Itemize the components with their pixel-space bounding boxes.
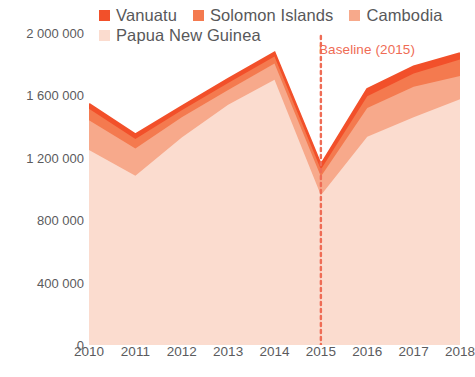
- y-axis: 2 000 0001 600 0001 200 000800 000400 00…: [0, 0, 84, 377]
- plot-area: [89, 20, 460, 345]
- baseline-annotation-label: Baseline (2015): [319, 42, 415, 57]
- x-axis-tick-2014: 2014: [259, 344, 289, 359]
- x-axis-tick-2018: 2018: [445, 344, 475, 359]
- stacked-area-chart: Vanuatu Solomon Islands Cambodia Papua N…: [0, 0, 475, 377]
- x-axis-tick-2011: 2011: [121, 344, 150, 359]
- x-axis: 201020112012201320142015201620172018: [89, 344, 460, 368]
- x-axis-tick-2015: 2015: [306, 344, 336, 359]
- area-series-group: [89, 20, 460, 345]
- x-axis-tick-2017: 2017: [399, 344, 429, 359]
- x-axis-tick-2016: 2016: [352, 344, 382, 359]
- y-axis-tick-0: 0: [0, 338, 84, 353]
- y-axis-tick-2000000: 2 000 000: [0, 26, 84, 41]
- x-axis-tick-2013: 2013: [213, 344, 243, 359]
- y-axis-tick-1600000: 1 600 000: [0, 88, 84, 103]
- y-axis-tick-800000: 800 000: [0, 213, 84, 228]
- y-axis-tick-400000: 400 000: [0, 275, 84, 290]
- y-axis-tick-1200000: 1 200 000: [0, 150, 84, 165]
- x-axis-tick-2012: 2012: [167, 344, 197, 359]
- x-axis-tick-2010: 2010: [74, 344, 104, 359]
